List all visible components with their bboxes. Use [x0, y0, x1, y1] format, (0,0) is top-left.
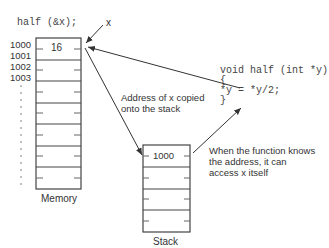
stack-cell-value: 1000: [153, 150, 174, 161]
address-ellipsis: [20, 85, 21, 184]
memory-address: 1003: [10, 72, 31, 83]
call-code: half (&x);: [17, 17, 77, 28]
note-line: Address of x copied: [121, 92, 204, 103]
function-code: void half (int *y) { *y = *y/2; }: [220, 66, 328, 106]
access-note: When the function knows the address, it …: [209, 145, 315, 178]
note-line: When the function knows: [209, 145, 315, 156]
memory-box: [36, 38, 81, 189]
memory-address: 1002: [10, 61, 31, 72]
memory-address: 1001: [10, 50, 31, 61]
function-code-line: *y = *y/2;: [220, 86, 328, 96]
pointer-label-x: x: [106, 17, 111, 28]
memory-address: 1000: [10, 39, 31, 50]
diagram-lines: [0, 0, 329, 248]
note-line: onto the stack: [121, 103, 204, 114]
memory-cell-value: 16: [51, 42, 62, 53]
stack-label: Stack: [153, 236, 178, 247]
memory-label: Memory: [41, 193, 77, 204]
note-line: access x itself: [209, 167, 315, 178]
note-line: the address, it can: [209, 156, 315, 167]
copy-address-note: Address of x copied onto the stack: [121, 92, 204, 114]
x-pointer-arrow: [86, 25, 103, 43]
function-code-line: }: [220, 96, 328, 106]
function-code-line: void half (int *y): [220, 66, 328, 76]
access-x-arrow: [88, 47, 240, 88]
